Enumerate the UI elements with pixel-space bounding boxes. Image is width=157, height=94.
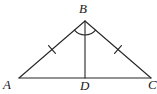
triangle-sides: [19, 21, 151, 78]
vertex-label-b: B: [79, 2, 87, 15]
vertex-label-d: D: [80, 79, 89, 92]
vertex-label-a: A: [3, 78, 11, 91]
vertex-label-c: C: [148, 78, 157, 91]
geometry-figure: A B D C: [0, 0, 157, 94]
